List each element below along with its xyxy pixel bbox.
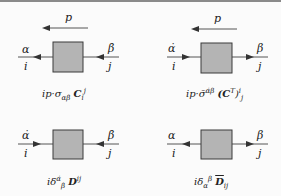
arrow-right-icon <box>246 141 254 147</box>
arrow-left-icon <box>33 54 41 60</box>
index-label: β <box>257 43 263 54</box>
momentum-label: p <box>214 13 221 24</box>
arrow-right-icon <box>246 54 254 60</box>
vertex-box <box>201 43 232 73</box>
index-label: α̇ <box>22 130 29 141</box>
vertex-box <box>53 130 83 159</box>
caption-top-left: ip·σαβ̇ Cij <box>42 88 86 102</box>
index-label: i <box>24 148 28 159</box>
diagram-bottom-right <box>167 130 268 159</box>
arrow-left-icon <box>96 141 104 147</box>
diagram-top-right <box>167 29 268 73</box>
arrow-right-icon <box>33 141 41 147</box>
arrow-left-icon <box>182 141 190 147</box>
index-label: j <box>108 148 111 159</box>
momentum-label: p <box>65 12 72 23</box>
index-label: i <box>24 61 28 72</box>
diagram-top-left <box>18 28 119 72</box>
index-label: α̇ <box>168 43 175 54</box>
caption-bottom-left: iδα̇β̇ Dij <box>47 176 81 190</box>
diagram-bottom-left <box>18 130 119 159</box>
index-label: α <box>22 44 29 55</box>
vertex-box <box>201 130 232 159</box>
arrow-left-icon <box>96 54 104 60</box>
arrow-right-icon <box>182 54 190 60</box>
index-label: j <box>108 61 111 72</box>
index-label: α <box>168 130 175 141</box>
index-label: i <box>172 148 176 159</box>
index-label: i <box>172 61 176 72</box>
index-label: β̇ <box>108 130 114 141</box>
index-label: j <box>258 148 261 159</box>
index-label: β <box>257 130 263 141</box>
caption-top-right: ip·σ̄α̇β (CT)ij <box>186 88 243 102</box>
index-label: j <box>258 61 261 72</box>
index-label: β̇ <box>108 43 114 54</box>
caption-bottom-right: iδαβ Dij <box>194 176 228 190</box>
vertex-box <box>53 42 83 72</box>
